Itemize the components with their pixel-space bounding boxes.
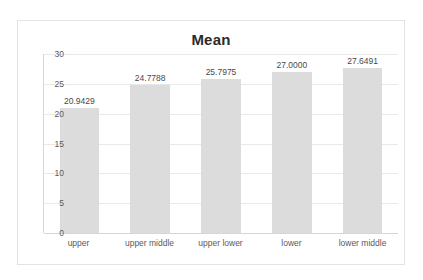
bar-slot: 27.6491 bbox=[327, 54, 398, 233]
y-tick-label: 25 bbox=[55, 79, 64, 89]
y-tick-label: 15 bbox=[55, 139, 64, 149]
bar-value-label: 24.7788 bbox=[115, 73, 186, 83]
x-category-label: upper middle bbox=[114, 236, 185, 256]
y-tick-label: 20 bbox=[55, 109, 64, 119]
bar-value-label: 25.7975 bbox=[186, 67, 257, 77]
bar[interactable] bbox=[130, 85, 170, 233]
y-tick-label: 10 bbox=[55, 168, 64, 178]
bar[interactable] bbox=[272, 72, 312, 233]
bars-layer: 20.942924.778825.797527.000027.6491 bbox=[44, 54, 398, 233]
chart-container[interactable]: Mean 20.942924.778825.797527.000027.6491… bbox=[17, 20, 405, 265]
bar-slot: 27.0000 bbox=[256, 54, 327, 233]
x-category-label: lower middle bbox=[327, 236, 398, 256]
y-tick-label: 30 bbox=[55, 49, 64, 59]
plot-area: 20.942924.778825.797527.000027.6491 bbox=[43, 54, 398, 233]
bar-value-label: 27.0000 bbox=[256, 60, 327, 70]
x-category-label: upper bbox=[43, 236, 114, 256]
bar-slot: 24.7788 bbox=[115, 54, 186, 233]
x-category-label: lower bbox=[256, 236, 327, 256]
axis-baseline bbox=[44, 233, 398, 234]
bar[interactable] bbox=[343, 68, 383, 233]
bar[interactable] bbox=[201, 79, 241, 233]
chart-title: Mean bbox=[18, 31, 404, 48]
y-tick-label: 5 bbox=[59, 198, 64, 208]
y-axis-ticks: 302520151050 bbox=[43, 54, 68, 233]
x-category-label: upper lower bbox=[185, 236, 256, 256]
x-axis-labels: upperupper middleupper lowerlowerlower m… bbox=[43, 236, 398, 256]
bar-slot: 25.7975 bbox=[186, 54, 257, 233]
plot-wrapper: 20.942924.778825.797527.000027.6491 3025… bbox=[43, 54, 398, 233]
bar-value-label: 27.6491 bbox=[327, 56, 398, 66]
